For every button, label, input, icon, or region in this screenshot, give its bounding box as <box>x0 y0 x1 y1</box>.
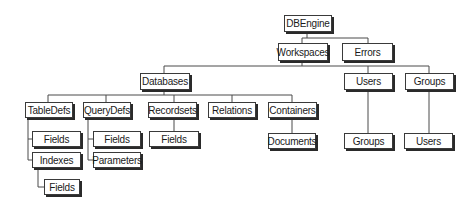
node-containers: Containers <box>268 102 317 118</box>
node-tabledefs-fields: Fields <box>32 131 81 147</box>
node-groups: Groups <box>405 73 454 90</box>
node-containers-documents: Documents <box>268 133 316 149</box>
node-databases: Databases <box>140 73 190 90</box>
node-querydefs: QueryDefs <box>83 102 131 118</box>
node-users-groups: Groups <box>344 133 393 149</box>
node-querydefs-fields: Fields <box>93 131 141 147</box>
node-users: Users <box>344 73 393 90</box>
node-dbengine: DBEngine <box>284 15 332 32</box>
node-indexes-fields: Fields <box>44 179 80 195</box>
node-recordsets: Recordsets <box>148 102 197 118</box>
dao-hierarchy-diagram: DBEngine Workspaces Errors Databases Use… <box>0 0 473 205</box>
node-relations: Relations <box>208 102 256 118</box>
node-groups-users: Users <box>404 133 453 149</box>
node-errors: Errors <box>342 43 393 61</box>
node-recordsets-fields: Fields <box>149 131 199 147</box>
node-tabledefs: TableDefs <box>25 102 73 118</box>
node-tabledefs-indexes: Indexes <box>32 152 81 168</box>
node-workspaces: Workspaces <box>278 43 328 61</box>
node-querydefs-parameters: Parameters <box>93 152 141 168</box>
